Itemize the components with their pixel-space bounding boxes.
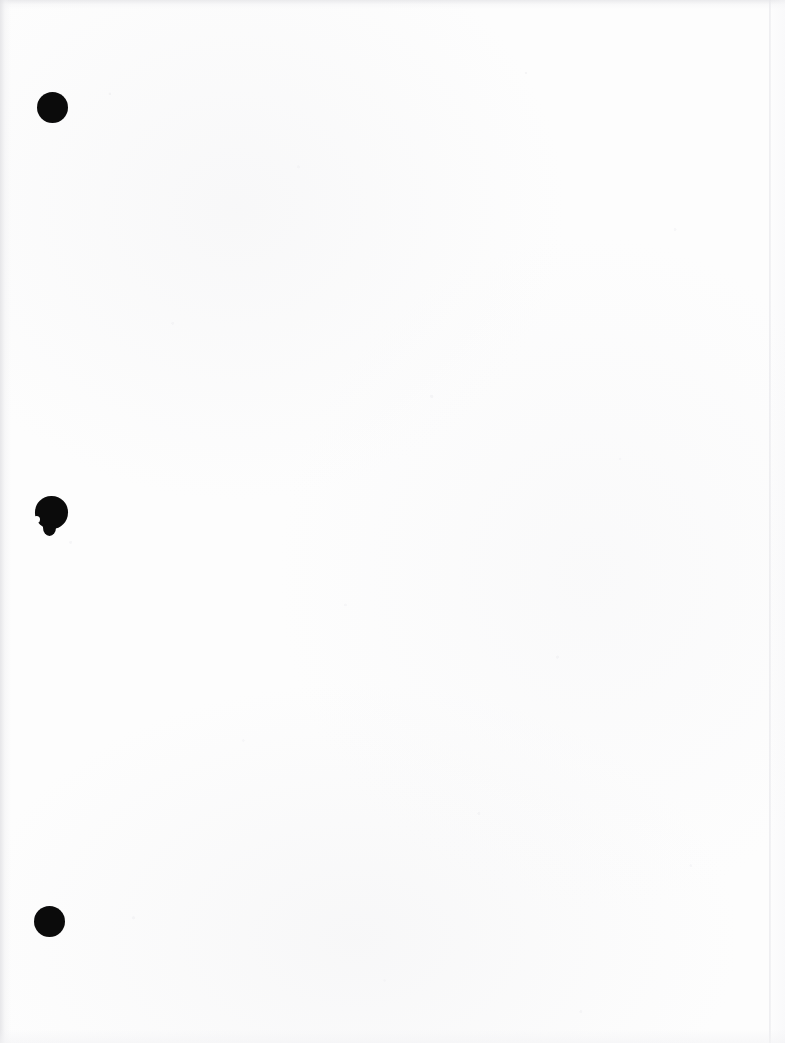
page-body-text <box>95 60 735 980</box>
scanned-page <box>0 0 785 1043</box>
punch-hole-tear-tab <box>43 524 56 536</box>
middle-punch-hole-icon <box>35 496 68 529</box>
punch-hole-edge-nick <box>33 516 40 523</box>
bottom-punch-hole-icon <box>34 906 65 937</box>
top-punch-hole-icon <box>37 92 68 123</box>
